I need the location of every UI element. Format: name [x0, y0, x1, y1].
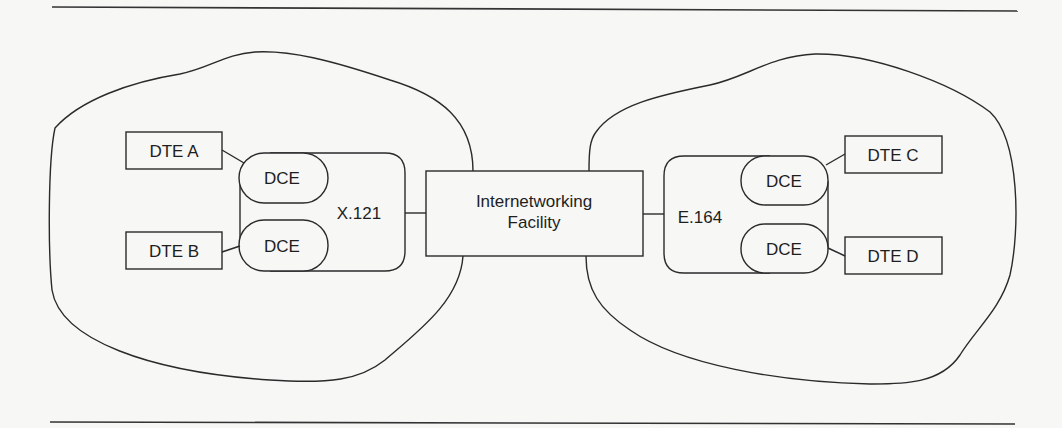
right-network-cloud [586, 54, 1016, 384]
dte-a-link [222, 150, 244, 163]
dce-left-top-label: DCE [264, 169, 300, 188]
e164-label: E.164 [678, 208, 722, 227]
left-network-cloud [49, 52, 473, 382]
top-rule [52, 7, 1018, 11]
bottom-rule [50, 422, 1015, 424]
dte-a-label: DTE A [149, 142, 199, 161]
dte-b-link [222, 246, 240, 252]
dte-c-link [826, 154, 845, 165]
dce-right-bottom-label: DCE [766, 240, 802, 259]
x121-label: X.121 [337, 204, 381, 223]
dce-left-bottom-label: DCE [264, 237, 300, 256]
facility-label-line2: Facility [508, 213, 561, 232]
dte-d-link [828, 248, 845, 256]
internetworking-diagram: DTE A DTE B DCE DCE X.121 Internetworkin… [0, 0, 1062, 428]
dte-d-label: DTE D [868, 247, 919, 266]
dce-right-top-label: DCE [766, 172, 802, 191]
dte-c-label: DTE C [868, 146, 919, 165]
facility-label-line1: Internetworking [476, 192, 592, 211]
dte-b-label: DTE B [149, 242, 199, 261]
